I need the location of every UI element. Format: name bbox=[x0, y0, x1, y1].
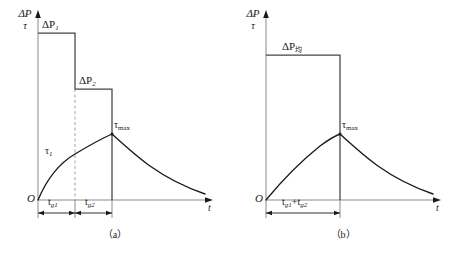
temperature-rise-curve-b bbox=[266, 134, 433, 200]
step-label-b-avg-main: ΔP bbox=[282, 40, 295, 52]
step-label-a-2: ΔP2 bbox=[79, 75, 96, 86]
y-axis-numerator-a: ΔP bbox=[12, 7, 38, 20]
peak-marker-a bbox=[111, 133, 114, 136]
caption-b: （b） bbox=[313, 226, 373, 241]
y-axis-label-b: ΔP τ bbox=[240, 7, 266, 32]
dim-arrow-left-tg2-a bbox=[75, 211, 81, 215]
dim-arrow-right-total-b bbox=[334, 211, 340, 215]
dim-label-tg1-a: tg1 bbox=[48, 197, 58, 207]
step-label-a-1-main: ΔP bbox=[42, 18, 55, 30]
caption-a: （a） bbox=[85, 226, 145, 241]
y-axis-numerator-b: ΔP bbox=[240, 7, 266, 20]
step-label-a-1: ΔP1 bbox=[42, 19, 59, 30]
step-label-a-2-sub: 2 bbox=[92, 80, 96, 88]
taumax-label-a-sub: max bbox=[118, 124, 130, 132]
temperature-rise-curve-a bbox=[38, 134, 205, 200]
taumax-label-b: τmax bbox=[342, 120, 358, 130]
y-axis-label-a: ΔP τ bbox=[12, 7, 38, 32]
dim-label-total-b-sub-b: g2 bbox=[300, 201, 307, 209]
step-label-b-avg: ΔP均 bbox=[282, 41, 302, 52]
taumax-label-a: τmax bbox=[114, 120, 130, 130]
dim-arrow-right-tg2-a bbox=[106, 211, 112, 215]
origin-label-b: O bbox=[255, 193, 263, 204]
diagram-panel-b: ΔP τ t O ΔP均 τmax tg1+tg2 （b） bbox=[228, 0, 456, 254]
power-pulse-rect-b bbox=[266, 55, 340, 200]
step-label-b-avg-sub: 均 bbox=[295, 46, 302, 54]
taumax-label-b-sub: max bbox=[346, 124, 358, 132]
tau1-label-a-sub: 1 bbox=[49, 150, 53, 158]
dim-label-total-b-sub-a: g1 bbox=[285, 201, 292, 209]
tau1-label-a: τ1 bbox=[45, 146, 53, 156]
dim-label-total-b: tg1+tg2 bbox=[282, 197, 307, 207]
dim-label-tg2-a-sub: g2 bbox=[88, 201, 95, 209]
diagram-panel-a: ΔP τ t O ΔP1 ΔP2 τ1 τmax tg1 tg2 （a） bbox=[0, 0, 228, 254]
dim-label-tg1-a-sub: g1 bbox=[51, 201, 58, 209]
dim-arrow-left-total-b bbox=[266, 211, 272, 215]
figure-root: ΔP τ t O ΔP1 ΔP2 τ1 τmax tg1 tg2 （a） bbox=[0, 0, 456, 254]
x-axis-label-a: t bbox=[208, 203, 211, 213]
step-label-a-1-sub: 1 bbox=[55, 24, 59, 32]
dim-arrow-right-tg1-a bbox=[69, 211, 75, 215]
y-axis-denominator-b: τ bbox=[240, 20, 266, 32]
y-axis-denominator-a: τ bbox=[12, 20, 38, 32]
dim-label-tg2-a: tg2 bbox=[85, 197, 95, 207]
peak-marker-b bbox=[339, 133, 342, 136]
origin-label-a: O bbox=[27, 193, 35, 204]
step-label-a-2-main: ΔP bbox=[79, 74, 92, 86]
x-axis-label-b: t bbox=[436, 203, 439, 213]
dim-arrow-left-tg1-a bbox=[38, 211, 44, 215]
